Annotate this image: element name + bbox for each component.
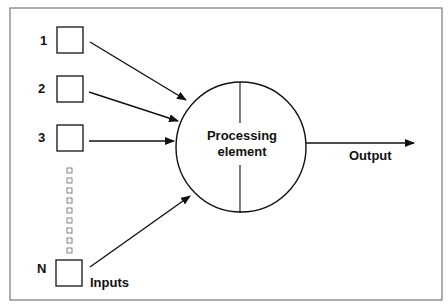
input-node-2 — [57, 76, 83, 102]
input-node-1 — [57, 27, 83, 53]
input-label-3: 3 — [38, 130, 45, 145]
input-label-n: N — [37, 261, 46, 276]
output-label: Output — [349, 148, 392, 163]
inputs-label: Inputs — [90, 275, 129, 290]
input-label-2: 2 — [38, 81, 45, 96]
ellipsis-squares — [67, 168, 72, 253]
neuron-diagram: 1 2 3 N Processing element Output Inputs — [0, 0, 448, 307]
processing-label-line1: Processing — [207, 128, 277, 143]
input-label-1: 1 — [40, 33, 47, 48]
input-node-3 — [57, 125, 83, 151]
input-node-n — [56, 260, 82, 286]
processing-label-line2: element — [217, 144, 267, 159]
